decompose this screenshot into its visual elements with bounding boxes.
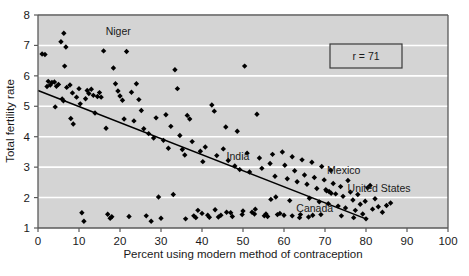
x-tick-label: 100: [438, 235, 457, 247]
y-tick-label: 1: [24, 222, 30, 234]
y-axis-ticks: 12345678: [24, 9, 38, 234]
point-label-canada: Canada: [296, 202, 333, 214]
x-axis-title: Percent using modern method of contracep…: [123, 248, 362, 260]
y-tick-label: 6: [24, 70, 30, 82]
x-tick-label: 20: [114, 235, 127, 247]
x-tick-label: 90: [401, 235, 414, 247]
chart-figure: 12345678 0102030405060708090100 NigerInd…: [0, 0, 469, 276]
x-tick-label: 10: [73, 235, 86, 247]
y-tick-label: 8: [24, 9, 30, 21]
x-tick-label: 40: [196, 235, 209, 247]
y-tick-label: 2: [24, 192, 30, 204]
y-tick-label: 5: [24, 100, 30, 112]
y-axis-title: Total fertility rate: [4, 79, 16, 163]
correlation-value: r = 71: [352, 50, 379, 62]
x-tick-label: 60: [278, 235, 291, 247]
x-tick-label: 30: [155, 235, 168, 247]
point-label-niger: Niger: [106, 25, 132, 37]
x-axis-ticks: 0102030405060708090100: [35, 228, 458, 247]
correlation-annotation: r = 71: [330, 44, 402, 68]
point-label-india: India: [227, 150, 250, 162]
x-tick-label: 50: [237, 235, 250, 247]
x-tick-label: 80: [360, 235, 373, 247]
y-tick-label: 7: [24, 39, 30, 51]
x-tick-label: 70: [319, 235, 332, 247]
point-label-mexico: Mexico: [327, 164, 360, 176]
scatter-plot: 12345678 0102030405060708090100 NigerInd…: [0, 0, 469, 276]
y-tick-label: 3: [24, 161, 30, 173]
point-label-united-states: United States: [348, 182, 411, 194]
y-tick-label: 4: [24, 131, 31, 143]
x-tick-label: 0: [35, 235, 41, 247]
